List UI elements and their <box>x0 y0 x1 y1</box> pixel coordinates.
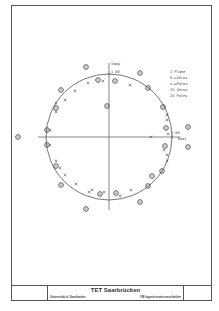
zero-marker-center <box>46 144 47 145</box>
title-block: TET Saarbrücken Universität d. Saarlande… <box>11 285 212 301</box>
imag-axis-label: Imag <box>111 62 120 66</box>
zero-marker-center <box>115 192 116 193</box>
title-block-university: Universität d. Saarlandes <box>50 295 86 299</box>
zero-marker-center <box>151 175 152 176</box>
zero-marker-center <box>55 107 56 108</box>
zero-marker-center <box>139 201 140 202</box>
title-block-department: FB Ingenieurwissenschaften <box>140 295 181 299</box>
pole-zero-plot <box>0 0 219 311</box>
zero-marker-center <box>187 146 188 147</box>
zero-marker-center <box>85 208 86 209</box>
zero-marker-center <box>147 87 148 88</box>
zeros-markers <box>16 65 191 212</box>
legend-poles-count: 25 Poles <box>170 93 187 99</box>
title-block-left-cell <box>11 286 48 301</box>
zero-marker-center <box>165 127 166 128</box>
imag-tick-label: 1.00 <box>111 70 120 74</box>
zero-marker-center <box>187 126 188 127</box>
zero-marker-center <box>161 170 162 171</box>
real-axis-label: Real <box>178 137 187 141</box>
title-block-middle-cell: TET Saarbrücken Universität d. Saarlande… <box>47 286 184 301</box>
zero-marker-center <box>162 106 163 107</box>
title-block-underline <box>47 300 184 301</box>
real-tick-label: 1.00 <box>171 131 180 135</box>
zero-marker-center <box>17 136 18 137</box>
zero-marker-center <box>97 79 98 80</box>
title-block-title: TET Saarbrücken <box>47 287 184 293</box>
title-block-right-cell <box>183 286 212 301</box>
legend: Z-Plane O:=Zeros x:=Poles 25 Zeros 25 Po… <box>170 69 187 99</box>
zero-marker-center <box>106 105 107 106</box>
zero-marker-center <box>55 165 56 166</box>
zero-marker-center <box>99 193 100 194</box>
zero-marker-center <box>60 89 61 90</box>
zero-marker-center <box>139 72 140 73</box>
zero-marker-center <box>46 129 47 130</box>
zero-marker-center <box>114 80 115 81</box>
zero-marker-center <box>147 185 148 186</box>
zero-marker-center <box>60 184 61 185</box>
zero-marker-center <box>164 145 165 146</box>
zero-marker-center <box>85 66 86 67</box>
